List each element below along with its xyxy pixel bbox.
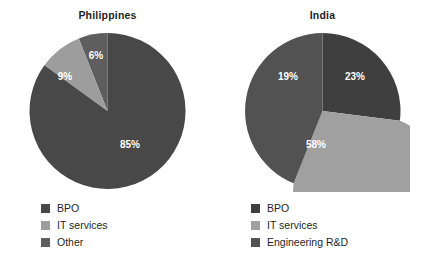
legend-item-bpo: BPO [251,200,430,216]
legend-swatch-icon-bpo [251,204,260,213]
pie-svg-philippines: 6% 9% 85% [20,32,195,192]
pie-value-label-bpo: 85% [120,139,140,150]
pie-india: 23% 58% 19% [215,32,430,192]
legend-item-other: Other [41,234,215,250]
legend-label-bpo: BPO [57,202,79,214]
legend-swatch-icon-other [41,238,50,247]
chart-panel-philippines: Philippines 6% 9% 85% BPO [0,0,215,266]
legend-swatch-icon-it-services [251,221,260,230]
legend-label-it-services: IT services [267,219,318,231]
legend-item-it-services: IT services [251,217,430,233]
legend-india: BPO IT services Engineering R&D [215,200,430,251]
pie-chart-figure: Philippines 6% 9% 85% BPO [0,0,430,266]
chart-panel-india: India 23% 58% 19% BPO IT s [215,0,430,266]
legend-label-engineering-rd: Engineering R&D [267,236,348,248]
page-title-india: India [215,9,430,21]
legend-item-it-services: IT services [41,217,215,233]
pie-philippines: 6% 9% 85% [0,32,215,192]
legend-swatch-icon-engineering-rd [251,238,260,247]
legend-label-other: Other [57,236,83,248]
pie-value-label-other: 6% [89,50,104,61]
pie-value-label-it-services: 58% [306,139,326,150]
legend-swatch-icon-bpo [41,204,50,213]
legend-item-bpo: BPO [41,200,215,216]
legend-item-engineering-rd: Engineering R&D [251,234,430,250]
pie-value-label-engineering-rd: 19% [278,71,298,82]
pie-svg-india: 23% 58% 19% [235,32,410,192]
page-title-philippines: Philippines [0,9,215,21]
legend-label-bpo: BPO [267,202,289,214]
pie-value-label-bpo: 23% [345,71,365,82]
legend-swatch-icon-it-services [41,221,50,230]
legend-label-it-services: IT services [57,219,108,231]
pie-value-label-it-services: 9% [58,71,73,82]
legend-philippines: BPO IT services Other [0,200,215,251]
